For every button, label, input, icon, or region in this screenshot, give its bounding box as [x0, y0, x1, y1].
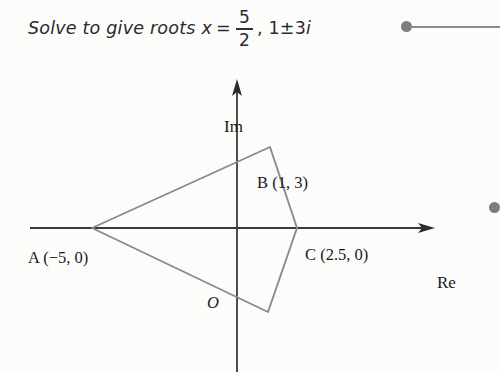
- argand-diagram: Im Re O B (1, 3) A (−5, 0) C (2.5, 0) D …: [0, 55, 500, 372]
- imaginary-axis-label: Im: [224, 117, 243, 137]
- solution-text: Solve to give roots x = 5 2 , 1±3i: [28, 4, 311, 52]
- vertex-label-c: C (2.5, 0): [305, 245, 368, 265]
- equals-sign: =: [216, 18, 231, 38]
- connector-line: [410, 26, 500, 28]
- imaginary-unit: i: [306, 18, 311, 38]
- origin-label: O: [207, 293, 219, 313]
- argand-diagram-svg: [0, 55, 500, 372]
- quadrilateral-abcd: [92, 147, 297, 312]
- complex-roots-text: , 1±3: [257, 18, 306, 38]
- solution-variable: x: [202, 18, 213, 38]
- real-axis-label: Re: [437, 273, 456, 293]
- fraction-numerator: 5: [239, 9, 250, 27]
- real-axis: [30, 223, 435, 233]
- complex-roots: , 1±3i: [257, 18, 311, 38]
- vertex-label-b: B (1, 3): [257, 173, 308, 193]
- solution-prefix: Solve to give roots: [28, 18, 196, 38]
- vertex-label-a: A (−5, 0): [28, 248, 88, 268]
- fraction-five-halves: 5 2: [236, 9, 253, 50]
- page-root: Solve to give roots x = 5 2 , 1±3i: [0, 0, 500, 372]
- fraction-denominator: 2: [239, 31, 250, 49]
